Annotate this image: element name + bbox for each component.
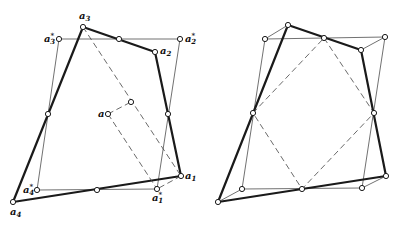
point-a1 [178, 173, 183, 178]
label-a2-star: a*2 [185, 31, 196, 46]
point-lower-right [383, 173, 388, 178]
box-top-left [262, 36, 267, 41]
dashed-center-link [108, 102, 131, 114]
connector-top-right [361, 37, 385, 50]
label-a3-star: a*3 [44, 31, 55, 46]
label-a4: a4 [10, 206, 21, 219]
midpoint-right [165, 111, 170, 116]
dashed-midpoint-rhombus [253, 38, 374, 189]
point-a3-star [56, 36, 61, 41]
label-a4-star: a*4 [23, 182, 34, 197]
dashed-to-a1star [108, 114, 157, 189]
right-panel [215, 22, 388, 204]
point-a3 [80, 24, 85, 29]
quadrilateral-diagram: a3 a2 a1 a4 a*3 a*2 a*1 a*4 a [0, 0, 398, 225]
left-panel: a3 a2 a1 a4 a*3 a*2 a*1 a*4 a [10, 10, 196, 219]
label-a1-star: a*1 [152, 190, 163, 205]
label-center-a: a [98, 108, 104, 119]
point-upper-right [358, 47, 363, 52]
midpoint-top [116, 36, 121, 41]
label-a1: a1 [185, 170, 196, 183]
midpoint-right-right-panel [371, 110, 376, 115]
point-center-a [105, 111, 110, 116]
point-bottom-left [215, 199, 220, 204]
point-center-b [128, 99, 133, 104]
box-bottom-right [359, 185, 364, 190]
point-top [285, 22, 290, 27]
midpoint-left-right-panel [250, 110, 255, 115]
box-bottom-left [239, 186, 244, 191]
midpoint-bottom-right-panel [299, 186, 304, 191]
midpoint-left [45, 111, 50, 116]
label-a3: a3 [79, 10, 90, 23]
point-a4 [10, 199, 15, 204]
midpoint-bottom [94, 187, 99, 192]
point-a4-star [34, 187, 39, 192]
midpoint-top-right-panel [321, 35, 326, 40]
point-a2-star [177, 36, 182, 41]
box-top-right [382, 34, 387, 39]
label-a2: a2 [160, 45, 171, 58]
point-a2 [152, 49, 157, 54]
